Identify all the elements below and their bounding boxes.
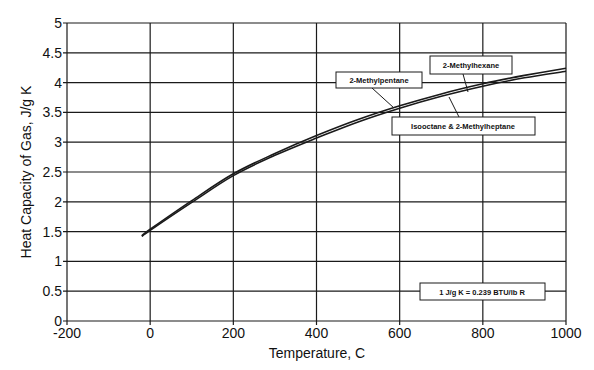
- x-tick-label: 400: [305, 325, 329, 341]
- y-tick-label: 1: [54, 253, 62, 269]
- x-tick-label: 0: [146, 325, 154, 341]
- conversion-note-text: 1 J/g K = 0.239 BTU/lb R: [439, 288, 525, 297]
- y-tick-label: 0.5: [43, 283, 63, 299]
- label-methylpentane: 2-Methylpentane: [336, 72, 422, 88]
- label-methylpentane-text: 2-Methylpentane: [349, 76, 408, 85]
- label-methylhexane: 2-Methylhexane: [430, 56, 512, 74]
- y-tick-label: 4: [54, 75, 62, 91]
- heat-capacity-chart: 00.511.522.533.544.55 -20002004006008001…: [0, 0, 594, 370]
- y-tick-label: 1.5: [43, 224, 63, 240]
- y-tick-label: 3.5: [43, 104, 63, 120]
- y-tick-label: 2: [54, 194, 62, 210]
- y-tick-label: 4.5: [43, 45, 63, 61]
- x-tick-label: 1000: [550, 325, 581, 341]
- y-axis-ticks: 00.511.522.533.544.55: [43, 15, 63, 329]
- x-tick-label: 600: [388, 325, 412, 341]
- conversion-note: 1 J/g K = 0.239 BTU/lb R: [420, 283, 545, 300]
- x-tick-label: 800: [471, 325, 495, 341]
- y-axis-title: Heat Capacity of Gas, J/g K: [18, 85, 34, 258]
- leader-methylpentane: [372, 88, 394, 108]
- data-series: [142, 68, 566, 236]
- x-axis-title: Temperature, C: [269, 345, 365, 361]
- x-tick-label: 200: [222, 325, 246, 341]
- x-axis-ticks: -20002004006008001000: [53, 325, 582, 341]
- label-methylhexane-text: 2-Methylhexane: [443, 61, 499, 70]
- label-isooctane-text: Isooctane & 2-Methylheptane: [411, 122, 515, 131]
- y-tick-label: 2.5: [43, 164, 63, 180]
- label-isooctane: Isooctane & 2-Methylheptane: [392, 117, 535, 135]
- y-tick-label: 5: [54, 15, 62, 31]
- series-line-methylpentane-methylhexane: [142, 68, 566, 236]
- x-tick-label: -200: [53, 325, 81, 341]
- leader-isooctane: [449, 97, 459, 117]
- series-line-isooctane-methylheptane: [142, 71, 566, 236]
- y-tick-label: 3: [54, 134, 62, 150]
